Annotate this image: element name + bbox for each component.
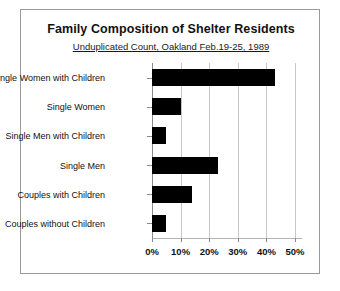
category-label-5: Couples without Children [0, 219, 105, 229]
x-axis-line [152, 238, 302, 239]
bar-single-men-with-children [152, 127, 166, 144]
category-label-4: Couples with Children [0, 190, 105, 200]
bar-row [152, 121, 295, 150]
bar-single-women [152, 98, 181, 115]
plot-area [152, 63, 295, 238]
x-tick-0 [152, 238, 153, 242]
bar-row [152, 92, 295, 121]
category-label-3: Single Men [0, 161, 105, 171]
bar-single-women-with-children [152, 69, 275, 86]
category-tick [147, 223, 152, 224]
chart-subtitle-text: Unduplicated Count, Oakland Feb.19-25, 1… [73, 41, 269, 52]
category-tick [147, 78, 152, 79]
category-tick [147, 107, 152, 108]
chart-subtitle: Unduplicated Count, Oakland Feb.19-25, 1… [21, 41, 321, 52]
x-tick-20 [209, 238, 210, 242]
x-tick-50 [295, 238, 296, 242]
category-tick [147, 136, 152, 137]
bar-couples-without-children [152, 215, 166, 232]
bar-couples-with-children [152, 186, 192, 203]
category-tick [147, 194, 152, 195]
category-label-1: Single Women [0, 102, 105, 112]
chart-frame: Family Composition of Shelter Residents … [20, 9, 320, 274]
chart-title: Family Composition of Shelter Residents [21, 22, 321, 36]
bar-row [152, 209, 295, 238]
bar-single-men [152, 157, 218, 174]
bar-row [152, 151, 295, 180]
x-tick-label-50: 50% [275, 246, 315, 257]
category-label-0: Single Women with Children [0, 73, 105, 83]
category-label-2: Single Men with Children [0, 131, 105, 141]
x-tick-10 [181, 238, 182, 242]
bar-row [152, 63, 295, 92]
x-tick-40 [266, 238, 267, 242]
category-tick [147, 165, 152, 166]
bar-row [152, 180, 295, 209]
gridline-50 [295, 63, 296, 238]
x-tick-30 [238, 238, 239, 242]
